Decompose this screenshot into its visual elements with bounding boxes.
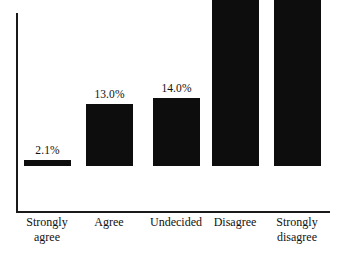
x-axis-category-labels: Strongly agree Agree Undecided Disagree … — [0, 215, 338, 258]
bar-strongly-disagree — [274, 0, 321, 166]
bar-undecided — [153, 98, 200, 166]
x-axis-label-agree: Agree — [76, 215, 142, 230]
x-axis-line — [16, 211, 330, 213]
x-axis-label-strongly-disagree: Strongly disagree — [264, 215, 330, 245]
plot-area: 2.1% 13.0% 14.0% 36.0% 35.0% — [0, 0, 338, 212]
x-axis-label-undecided: Undecided — [143, 215, 209, 230]
x-axis-label-disagree: Disagree — [202, 215, 268, 230]
bar-value-label: 14.0% — [144, 82, 209, 94]
bar-value-label: 13.0% — [77, 88, 142, 100]
bar-agree — [86, 104, 133, 166]
bar-strongly-agree — [24, 160, 71, 166]
bar-chart: 2.1% 13.0% 14.0% 36.0% 35.0% Strongly ag… — [0, 0, 338, 258]
bar-disagree — [212, 0, 259, 166]
bar-value-label: 2.1% — [15, 144, 80, 156]
y-axis-line — [16, 13, 18, 213]
x-axis-label-strongly-agree: Strongly agree — [14, 215, 80, 245]
